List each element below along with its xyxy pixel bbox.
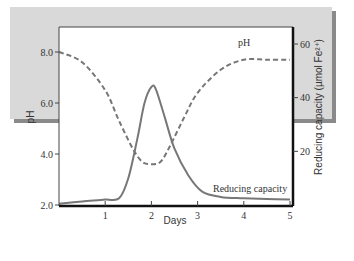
chart-figure: 123452.04.06.08.0204060 pH Reducing capa… bbox=[0, 0, 354, 261]
y-axis-title: pH bbox=[25, 111, 36, 124]
y-tick-label: 6.0 bbox=[41, 98, 54, 109]
y2-tick-label: 40 bbox=[300, 92, 310, 103]
y-tick-label: 2.0 bbox=[41, 200, 54, 211]
x-tick-label: 4 bbox=[241, 210, 246, 221]
y2-tick-label: 60 bbox=[300, 39, 310, 50]
y2-axis-title: Reducing capacity (µmol Fe²⁺) bbox=[313, 39, 324, 175]
x-tick-label: 5 bbox=[288, 210, 293, 221]
reducing-capacity-annotation: Reducing capacity bbox=[213, 183, 287, 194]
x-axis-title: Days bbox=[164, 215, 187, 226]
x-tick-label: 2 bbox=[149, 210, 154, 221]
ph-annotation: pH bbox=[238, 37, 250, 48]
x-tick-label: 1 bbox=[103, 210, 108, 221]
y-tick-label: 4.0 bbox=[41, 149, 54, 160]
x-tick-label: 3 bbox=[195, 210, 200, 221]
y-tick-label: 8.0 bbox=[41, 47, 54, 58]
plot-area bbox=[59, 27, 293, 206]
y2-tick-label: 20 bbox=[300, 146, 310, 157]
